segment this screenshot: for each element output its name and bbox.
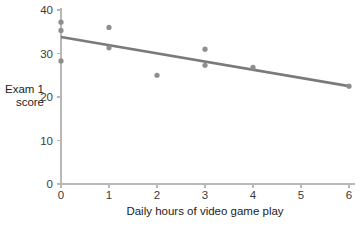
data-point — [58, 28, 63, 33]
data-point — [58, 20, 63, 25]
y-axis-tick-label: 40 — [40, 4, 53, 16]
y-axis-tick-label: 30 — [40, 48, 53, 60]
y-axis-tick-label: 10 — [40, 135, 53, 147]
x-axis-tick-label: 2 — [154, 189, 160, 201]
y-axis-tick-label: 0 — [47, 178, 53, 190]
data-point — [202, 63, 207, 68]
data-point — [58, 58, 63, 63]
axes-group — [61, 8, 355, 184]
x-axis-tick-label: 6 — [346, 189, 352, 201]
data-point — [154, 73, 159, 78]
trend-line — [61, 37, 349, 86]
x-axis-title: Daily hours of video game play — [126, 205, 283, 217]
data-point — [202, 47, 207, 52]
data-point — [106, 45, 111, 50]
y-axis-title-line: score — [16, 96, 44, 108]
x-axis-tick-label: 4 — [250, 189, 257, 201]
x-tick-group: 0123456 — [58, 184, 352, 201]
data-point — [346, 84, 351, 89]
axis-titles-group: Daily hours of video game playExam 1scor… — [5, 83, 284, 217]
x-axis-tick-label: 5 — [298, 189, 304, 201]
y-axis-title-line: Exam 1 — [5, 83, 44, 95]
plot-canvas: 010203040 0123456 Daily hours of video g… — [0, 0, 360, 226]
x-axis-tick-label: 3 — [202, 189, 208, 201]
data-point — [106, 25, 111, 30]
data-point — [250, 65, 255, 70]
x-axis-tick-label: 1 — [106, 189, 112, 201]
x-axis-tick-label: 0 — [58, 189, 64, 201]
trend-line-group — [61, 37, 349, 86]
scatter-plot-figure: 010203040 0123456 Daily hours of video g… — [0, 0, 360, 226]
